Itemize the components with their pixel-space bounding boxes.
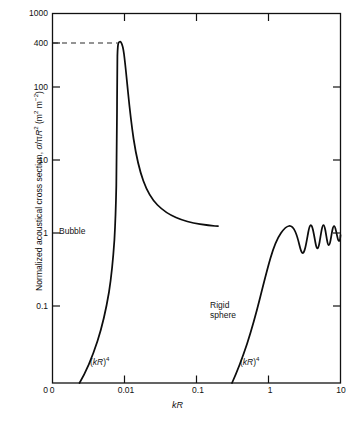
annotation-rigid-line2: sphere — [210, 310, 236, 320]
figure-caption — [0, 418, 355, 427]
y-axis-ticks-right — [333, 87, 341, 306]
annotation-bubble: Bubble — [59, 226, 85, 236]
annotation-rigid-sphere: Rigid sphere — [210, 300, 236, 320]
figure-container: Normalized acoustical cross section, σ/π… — [0, 0, 355, 427]
annotation-power-law-bubble: (kR)4 — [90, 357, 109, 367]
x-axis-ticks-top — [125, 14, 269, 22]
x-axis-ticks — [125, 376, 269, 384]
annotation-rigid-line1: Rigid — [210, 300, 229, 310]
curve-bubble — [80, 42, 219, 383]
power-law-exponent-rigid: 4 — [256, 355, 259, 362]
plot-frame — [53, 14, 341, 384]
power-law-exponent-bubble: 4 — [106, 355, 109, 362]
annotation-power-law-rigid: (kR)4 — [240, 357, 259, 367]
power-law-base-bubble: (kR) — [90, 357, 106, 367]
plot-area — [0, 0, 355, 427]
power-law-base-rigid: (kR) — [240, 357, 256, 367]
y-axis-ticks — [53, 43, 61, 306]
